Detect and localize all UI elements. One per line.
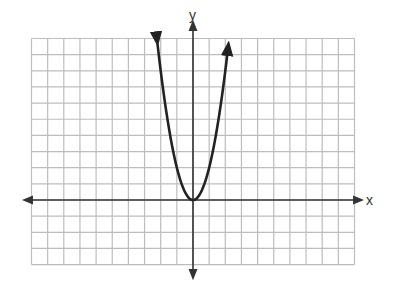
x-axis-label: x xyxy=(366,192,373,208)
coordinate-plane: x y xyxy=(0,0,397,290)
y-axis-label: y xyxy=(189,7,196,23)
